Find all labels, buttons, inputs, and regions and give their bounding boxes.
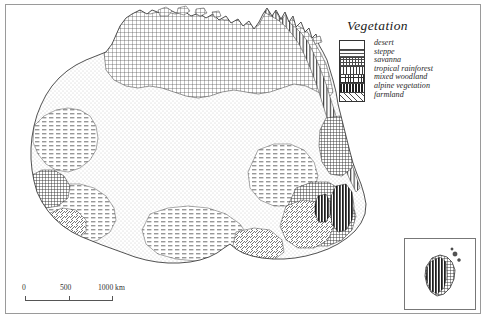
legend-swatch-tropical-rainforest bbox=[340, 67, 364, 76]
legend-swatch-farmland bbox=[340, 93, 364, 102]
scale-bar-labels: 0 500 1000 km bbox=[18, 283, 143, 294]
scale-bar-mid-tick bbox=[69, 296, 70, 301]
legend-label-column: desert steppe savanna tropical rainfores… bbox=[374, 39, 433, 99]
legend-swatch-desert bbox=[340, 41, 364, 50]
map-legend: Vegetation desert steppe savanna tropica… bbox=[339, 18, 469, 102]
vegetation-map-figure: Vegetation desert steppe savanna tropica… bbox=[0, 0, 488, 321]
legend-swatch-mixed-woodland bbox=[340, 75, 364, 84]
legend-label-farmland: farmland bbox=[374, 91, 433, 100]
legend-swatch-column bbox=[339, 40, 365, 102]
legend-swatch-steppe bbox=[340, 50, 364, 59]
scale-label-1000: 1000 km bbox=[98, 283, 125, 292]
scale-label-500: 500 bbox=[60, 283, 71, 292]
scale-label-0: 0 bbox=[22, 283, 26, 292]
legend-swatch-alpine-vegetation bbox=[340, 84, 364, 93]
tasmania-inset-box bbox=[404, 238, 476, 310]
legend-swatch-savanna bbox=[340, 58, 364, 67]
legend-title: Vegetation bbox=[347, 18, 469, 34]
scale-bar-rule bbox=[25, 296, 113, 301]
scale-bar: 0 500 1000 km bbox=[18, 283, 143, 307]
